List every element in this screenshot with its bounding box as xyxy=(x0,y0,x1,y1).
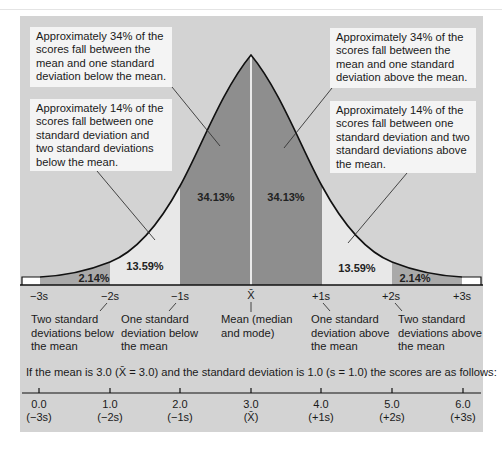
axis-label-plus3s: +3s xyxy=(447,290,477,303)
pct-right-34: 34.13% xyxy=(267,191,305,203)
scale-label-2: 2.0(−1s) xyxy=(158,398,202,424)
pct-right-2: 2.14% xyxy=(399,272,430,284)
axis-label-minus1s: −1s xyxy=(165,290,195,303)
desc-plus1s: One standard deviation above the mean xyxy=(311,313,395,354)
region-left-tail xyxy=(22,277,40,285)
region-right-34 xyxy=(252,56,322,285)
note-left-34: Approximately 34% of the scores fall bet… xyxy=(30,27,172,87)
axis-label-minus2s: −2s xyxy=(95,290,125,303)
scale-label-6: 6.0(+3s) xyxy=(441,398,485,424)
scale-label-5: 5.0(+2s) xyxy=(370,398,414,424)
axis-label-minus3s: −3s xyxy=(24,290,54,303)
note-right-34: Approximately 34% of the scores fall bet… xyxy=(330,28,476,88)
axis-label-mean: X̄ xyxy=(236,289,266,302)
axis-label-plus2s: +2s xyxy=(376,290,406,303)
note-right-14: Approximately 14% of the scores fall bet… xyxy=(330,101,476,173)
example-caption: If the mean is 3.0 (X̄ = 3.0) and the st… xyxy=(26,366,497,378)
desc-minus1s: One standard deviation below the mean xyxy=(121,313,205,354)
desc-plus2s: Two standard deviations above the mean xyxy=(398,313,484,354)
label-connectors xyxy=(100,302,402,312)
score-scale-ticks xyxy=(39,388,463,393)
pct-left-2: 2.14% xyxy=(78,272,109,284)
pct-left-14: 13.59% xyxy=(126,260,164,272)
desc-mean: Mean (median and mode) xyxy=(221,313,301,340)
scale-label-1: 1.0(−2s) xyxy=(88,398,132,424)
region-right-tail xyxy=(462,277,481,285)
pct-right-14: 13.59% xyxy=(338,262,376,274)
scale-label-0: 0.0(−3s) xyxy=(17,398,61,424)
desc-minus2s: Two standard deviations below the mean xyxy=(31,313,117,354)
scale-label-3: 3.0(X̄) xyxy=(229,398,273,424)
pct-left-34: 34.13% xyxy=(197,191,235,203)
axis-label-plus1s: +1s xyxy=(306,290,336,303)
scale-label-4: 4.0(+1s) xyxy=(299,398,343,424)
region-left-34 xyxy=(180,56,250,285)
note-left-14: Approximately 14% of the scores fall bet… xyxy=(30,99,172,171)
